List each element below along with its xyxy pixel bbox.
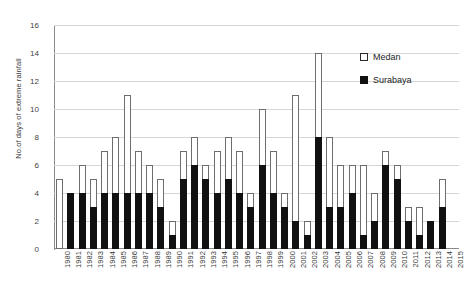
- chart-legend: Medan Surabaya: [360, 52, 412, 98]
- x-tick-label: 1998: [265, 251, 274, 268]
- bar-segment-surabaya[interactable]: [337, 207, 344, 249]
- bar-group[interactable]: [90, 25, 97, 249]
- y-tick-label: 6: [5, 161, 39, 170]
- bar-segment-surabaya[interactable]: [124, 193, 131, 249]
- x-tick-label: 2012: [423, 251, 432, 268]
- bar-group[interactable]: [112, 25, 119, 249]
- x-tick-label: 1980: [63, 251, 72, 268]
- bar-segment-medan[interactable]: [56, 179, 63, 249]
- bar-group[interactable]: [124, 25, 131, 249]
- bar-group[interactable]: [214, 25, 221, 249]
- bar-group[interactable]: [337, 25, 344, 249]
- bar-group[interactable]: [79, 25, 86, 249]
- x-tick-label: 1995: [231, 251, 240, 268]
- bar-segment-surabaya[interactable]: [270, 193, 277, 249]
- bar-segment-surabaya[interactable]: [157, 207, 164, 249]
- bar-group[interactable]: [146, 25, 153, 249]
- bar-group[interactable]: [247, 25, 254, 249]
- bar-group[interactable]: [450, 25, 457, 249]
- x-tick-label: 1991: [186, 251, 195, 268]
- bar-segment-surabaya[interactable]: [79, 193, 86, 249]
- bar-group[interactable]: [292, 25, 299, 249]
- bar-segment-surabaya[interactable]: [439, 207, 446, 249]
- legend-label-medan: Medan: [373, 52, 401, 62]
- bar-segment-surabaya[interactable]: [281, 207, 288, 249]
- x-tick-label: 2000: [288, 251, 297, 268]
- legend-item-surabaya: Surabaya: [360, 75, 412, 85]
- x-tick-label: 2003: [321, 251, 330, 268]
- x-tick-label: 1996: [243, 251, 252, 268]
- bar-group[interactable]: [416, 25, 423, 249]
- x-tick-label: 2009: [389, 251, 398, 268]
- x-tick-label: 2010: [400, 251, 409, 268]
- y-tick-label: 14: [5, 49, 39, 58]
- bar-segment-surabaya[interactable]: [90, 207, 97, 249]
- bar-segment-surabaya[interactable]: [146, 193, 153, 249]
- bar-group[interactable]: [101, 25, 108, 249]
- bar-segment-surabaya[interactable]: [326, 207, 333, 249]
- x-tick-label: 2005: [344, 251, 353, 268]
- x-tick-label: 1992: [198, 251, 207, 268]
- bar-segment-surabaya[interactable]: [247, 207, 254, 249]
- bar-group[interactable]: [281, 25, 288, 249]
- x-tick-label: 1988: [153, 251, 162, 268]
- y-tick-label: 10: [5, 105, 39, 114]
- bar-segment-surabaya[interactable]: [405, 221, 412, 249]
- x-tick-label: 1981: [74, 251, 83, 268]
- bar-group[interactable]: [191, 25, 198, 249]
- y-tick-label: 0: [5, 245, 39, 254]
- x-tick-label: 2007: [366, 251, 375, 268]
- bar-segment-surabaya[interactable]: [394, 179, 401, 249]
- bar-group[interactable]: [427, 25, 434, 249]
- bar-segment-surabaya[interactable]: [180, 179, 187, 249]
- bar-segment-surabaya[interactable]: [304, 235, 311, 249]
- bar-segment-surabaya[interactable]: [236, 193, 243, 249]
- bar-segment-surabaya[interactable]: [382, 165, 389, 249]
- bar-segment-surabaya[interactable]: [416, 235, 423, 249]
- bar-group[interactable]: [225, 25, 232, 249]
- x-tick-label: 2001: [299, 251, 308, 268]
- bar-segment-surabaya[interactable]: [360, 235, 367, 249]
- bar-group[interactable]: [349, 25, 356, 249]
- x-tick-label: 1994: [220, 251, 229, 268]
- bar-segment-surabaya[interactable]: [202, 179, 209, 249]
- bar-group[interactable]: [67, 25, 74, 249]
- bar-group[interactable]: [56, 25, 63, 249]
- bar-group[interactable]: [270, 25, 277, 249]
- x-tick-label: 1990: [175, 251, 184, 268]
- x-tick-label: 2004: [333, 251, 342, 268]
- bar-group[interactable]: [135, 25, 142, 249]
- legend-label-surabaya: Surabaya: [373, 75, 412, 85]
- bar-segment-surabaya[interactable]: [315, 137, 322, 249]
- legend-item-medan: Medan: [360, 52, 412, 62]
- bar-segment-surabaya[interactable]: [292, 221, 299, 249]
- bar-segment-surabaya[interactable]: [135, 193, 142, 249]
- bar-segment-surabaya[interactable]: [349, 193, 356, 249]
- bar-group[interactable]: [315, 25, 322, 249]
- bar-group[interactable]: [326, 25, 333, 249]
- y-tick-label: 4: [5, 189, 39, 198]
- bar-group[interactable]: [180, 25, 187, 249]
- x-tick-label: 1997: [254, 251, 263, 268]
- x-tick-label: 1982: [85, 251, 94, 268]
- bar-segment-surabaya[interactable]: [101, 193, 108, 249]
- bar-segment-surabaya[interactable]: [112, 193, 119, 249]
- bar-segment-surabaya[interactable]: [169, 235, 176, 249]
- bar-group[interactable]: [202, 25, 209, 249]
- y-tick-label: 8: [5, 133, 39, 142]
- bar-segment-surabaya[interactable]: [214, 193, 221, 249]
- bar-group[interactable]: [236, 25, 243, 249]
- bar-group[interactable]: [169, 25, 176, 249]
- bar-segment-surabaya[interactable]: [427, 221, 434, 249]
- bar-segment-surabaya[interactable]: [225, 179, 232, 249]
- bar-group[interactable]: [304, 25, 311, 249]
- bar-segment-surabaya[interactable]: [371, 221, 378, 249]
- bar-group[interactable]: [157, 25, 164, 249]
- extreme-rainfall-bar-chart: No.of days of extreme rainfall 024681012…: [0, 0, 470, 289]
- bar-segment-surabaya[interactable]: [67, 193, 74, 249]
- bar-segment-surabaya[interactable]: [259, 165, 266, 249]
- x-tick-label: 2014: [445, 251, 454, 268]
- bar-segment-surabaya[interactable]: [191, 165, 198, 249]
- bar-group[interactable]: [259, 25, 266, 249]
- bar-group[interactable]: [439, 25, 446, 249]
